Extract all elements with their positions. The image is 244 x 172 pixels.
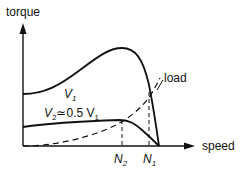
x-axis-label: speed [202,139,235,153]
v2-label: V2≃0.5 V1 [44,106,100,122]
load-leader-line [157,80,163,90]
x-axis [23,143,195,150]
curve-v2 [23,120,159,146]
n2-label: N2 [114,152,128,168]
curve-v1 [23,48,159,146]
load-label: load [164,71,187,85]
y-axis-label: torque [6,5,40,19]
x-axis-arrow-icon [184,143,195,150]
v1-label: V1 [64,87,76,103]
y-axis-arrow-icon [20,23,27,34]
n1-label: N1 [143,152,156,168]
torque-speed-diagram: torque speed V1 V2≃0.5 V1 load N2 N1 [0,0,244,172]
